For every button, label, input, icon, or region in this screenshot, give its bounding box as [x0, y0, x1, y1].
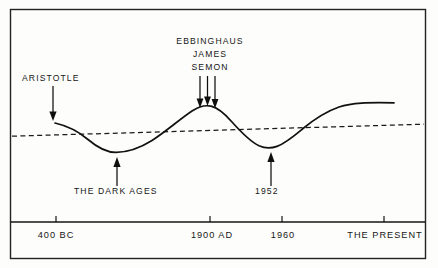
nineteen-fifty-two-label: 1952 [255, 186, 279, 196]
x-tick-label-1900ad: 1900 AD [191, 230, 233, 240]
dark-ages-label: THE DARK AGES [74, 186, 158, 196]
ebbinghaus-label: EBBINGHAUS [176, 36, 243, 46]
memory-interest-timeline-figure: 400 BC 1900 AD 1960 THE PRESENT ARISTOTL… [0, 0, 438, 268]
aristotle-label: ARISTOTLE [22, 73, 80, 83]
semon-label: SEMON [191, 62, 228, 72]
james-label: JAMES [193, 49, 227, 59]
x-tick-label-1960: 1960 [271, 230, 295, 240]
x-tick-label-400bc: 400 BC [38, 230, 75, 240]
figure-page: 400 BC 1900 AD 1960 THE PRESENT ARISTOTL… [0, 0, 438, 268]
x-tick-label-the-present: THE PRESENT [347, 230, 422, 240]
